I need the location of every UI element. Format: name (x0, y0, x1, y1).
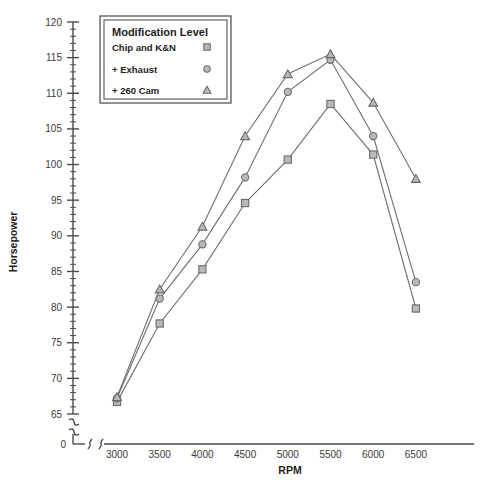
data-point-circle (199, 241, 206, 248)
x-tick-label: 4000 (191, 449, 214, 460)
data-point-square (284, 156, 291, 163)
y-tick-label: 95 (51, 195, 63, 206)
y-tick-label: 65 (51, 409, 63, 420)
x-tick-label: 6000 (362, 449, 385, 460)
y-tick-label: 80 (51, 302, 63, 313)
data-point-circle (412, 279, 419, 286)
y-tick-label: 110 (46, 88, 62, 99)
legend-marker-circle[interactable] (204, 66, 210, 72)
chart-canvas: 65707580859095100105110115120 0 30003500… (0, 0, 485, 485)
y-tick-label: 75 (51, 337, 63, 348)
data-point-circle (284, 88, 291, 95)
x-axis-title: RPM (278, 464, 302, 476)
data-point-square (327, 100, 334, 107)
data-point-square (199, 266, 206, 273)
x-tick-label: 3500 (149, 449, 172, 460)
legend-marker-square[interactable] (204, 44, 210, 50)
data-point-square (156, 320, 163, 327)
y-tick-label: 85 (51, 266, 63, 277)
data-point-square (412, 305, 419, 312)
data-point-square (370, 151, 377, 158)
data-point-circle (370, 132, 377, 139)
x-tick-label: 5500 (319, 449, 342, 460)
y-tick-label: 120 (45, 17, 62, 28)
horsepower-vs-rpm-chart: 65707580859095100105110115120 0 30003500… (0, 0, 485, 485)
y-tick-label: 70 (51, 373, 63, 384)
data-point-circle (242, 174, 249, 181)
y-tick-label: 100 (45, 159, 62, 170)
y-tick-label: 105 (45, 123, 62, 134)
x-tick-label: 6500 (405, 449, 428, 460)
legend-label-square[interactable]: Chip and K&N (112, 42, 176, 53)
x-tick-label: 3000 (106, 449, 129, 460)
legend-title: Modification Level (112, 26, 208, 38)
legend-label-triangle[interactable]: + 260 Cam (112, 85, 159, 96)
y-tick-label: 90 (51, 230, 63, 241)
y-axis-title: Horsepower (7, 212, 19, 273)
y-tick-label: 115 (46, 52, 62, 63)
x-tick-label: 5000 (277, 449, 300, 460)
data-point-square (242, 199, 249, 206)
x-tick-label: 4500 (234, 449, 257, 460)
legend-label-circle[interactable]: + Exhaust (112, 64, 158, 75)
y-tick-label-zero: 0 (60, 439, 66, 450)
legend: Modification Level Chip and K&N+ Exhaust… (100, 16, 231, 103)
